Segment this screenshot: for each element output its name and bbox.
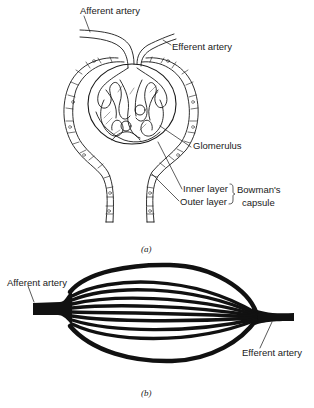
label-afferent-artery-b: Afferent artery [7,278,67,288]
efferent-artery-leader-b [260,322,272,348]
afferent-artery-stem [33,290,72,326]
capillary-lines [72,282,256,338]
efferent-artery-stem [252,308,294,326]
label-efferent-artery-b: Efferent artery [242,348,302,358]
caption-panel-b: (b) [141,388,152,398]
afferent-artery-leader-b [28,286,34,302]
